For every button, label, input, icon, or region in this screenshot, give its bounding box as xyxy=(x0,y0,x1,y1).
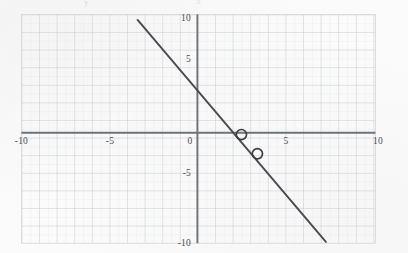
x-tick-label-0: 0 xyxy=(188,136,193,146)
graph-figure: y 5 xyxy=(0,0,408,253)
y-tick-label--10: -10 xyxy=(178,238,191,248)
x-tick-label-10: 10 xyxy=(373,136,383,146)
grid-layer xyxy=(21,14,375,243)
x-tick-label-5: 5 xyxy=(284,136,289,146)
y-tick-label--5: -5 xyxy=(183,168,191,178)
major-gridlines xyxy=(21,14,375,243)
x-tick-label--5: -5 xyxy=(106,136,114,146)
x-tick-label--10: -10 xyxy=(15,136,28,146)
y-tick-label-10: 10 xyxy=(181,13,191,23)
coordinate-plane: -10 -5 0 5 10 10 5 -5 -10 xyxy=(0,0,408,253)
y-tick-label-5: 5 xyxy=(186,54,191,64)
